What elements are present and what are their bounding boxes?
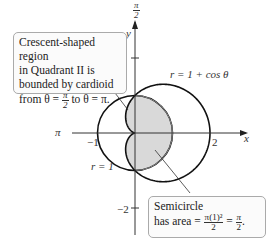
crescent-line4-suffix: to θ = π. (69, 93, 110, 105)
tick-label-neg1: −1 (87, 136, 99, 148)
cardioid-label: r = 1 + cos θ (170, 68, 228, 80)
crescent-line4-prefix: from θ = (19, 93, 62, 105)
area-period: . (242, 215, 245, 227)
crescent-callout-line3: bounded by cardioid (19, 77, 121, 91)
pi-label: π (55, 126, 61, 138)
crescent-callout: Crescent-shaped region in Quadrant II is… (13, 32, 127, 94)
tick-label-2: 2 (212, 136, 218, 148)
pi-over-2-label: π2 (133, 1, 140, 20)
semicircle-line2-prefix: has area = (154, 215, 204, 227)
semicircle-callout-line2: has area = π(1)²2 = π2. (154, 213, 260, 232)
x-axis-label: x (244, 132, 249, 144)
area-frac1-den: 2 (204, 223, 224, 232)
crescent-callout-line1: Crescent-shaped region (19, 35, 121, 63)
crescent-callout-line2: in Quadrant II is (19, 63, 121, 77)
semicircle-callout-line1: Semicircle (154, 199, 260, 213)
pi-over-2-den: 2 (133, 11, 140, 20)
area-equals: = (223, 215, 235, 227)
y-axis-arrow-icon (132, 20, 138, 29)
circle-label: r = 1 (91, 160, 114, 172)
crescent-callout-line4: from θ = π2 to θ = π. (19, 91, 121, 110)
semicircle-callout: Semicircle has area = π(1)²2 = π2. (148, 196, 266, 238)
tick-label-yneg2: −2 (117, 203, 129, 215)
semicircle-leader-line (155, 150, 190, 193)
